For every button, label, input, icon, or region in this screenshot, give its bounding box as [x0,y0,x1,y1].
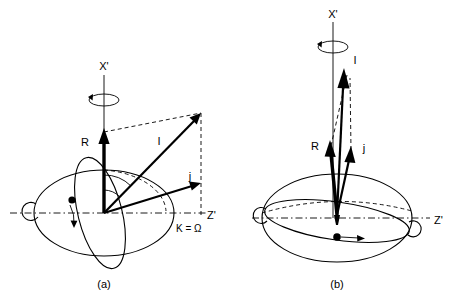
panel-a-caption: (a) [97,278,110,290]
panel-a-vector-j-arrowhead [189,182,201,191]
panel-b-x-axis-label: X' [328,8,337,20]
panel-a-node-label: K = Ω [176,223,202,234]
panel-b-vector-r-label: R [311,140,319,152]
panel-a-vector-i-label: I [157,135,160,147]
panel-b-construction-line-j-to-i [350,78,351,150]
panel-b-orbit-motion-arrowhead [357,235,365,242]
panel-b-vector-r-shaft [331,154,337,215]
panel-b-vector-i-label: I [353,54,356,66]
panel-b: X' Z' I R j (b) [252,8,443,290]
panel-b-vector-origin-wedge [334,215,340,225]
panel-a-vector-r-label: R [81,136,89,148]
panel-b-vector-j-label: j [362,142,365,154]
panel-b-caption: (b) [330,278,343,290]
panel-a-orbit-motion-arrowhead [71,221,78,229]
diagram-canvas: X' Z' K = Ω R I j (a) [0,0,457,301]
panel-a-angle-arc-outer [104,175,131,186]
panel-b-vector-j-arrowhead [344,146,355,163]
panel-a: X' Z' K = Ω R I j (a) [10,60,216,290]
panel-a-z-axis-label: Z' [207,209,216,221]
panel-b-vector-i-arrowhead [337,68,349,89]
panel-a-x-axis-label: X' [99,60,108,72]
panel-b-z-axis-label: Z' [434,214,443,226]
panel-b-orbit-motion-path [341,237,359,238]
panel-a-satellite-dot [68,196,75,203]
panel-b-vector-r-arrowhead [325,140,336,157]
panel-b-satellite-dot [333,233,341,241]
figure-container: X' Z' K = Ω R I j (a) [0,0,457,301]
panel-a-vector-r-arrowhead [98,128,109,144]
panel-a-vector-j-label: j [188,170,191,182]
